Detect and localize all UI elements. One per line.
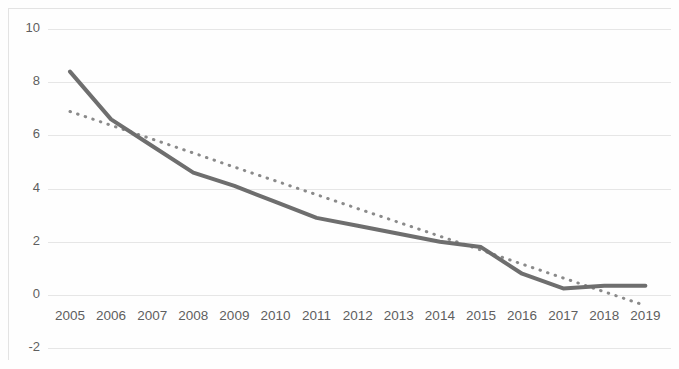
plot-area <box>0 0 679 369</box>
chart-container: 1086420-2 200520062007200820092010201120… <box>0 0 679 369</box>
data-series-line <box>70 72 645 289</box>
trendline-series <box>70 112 645 306</box>
